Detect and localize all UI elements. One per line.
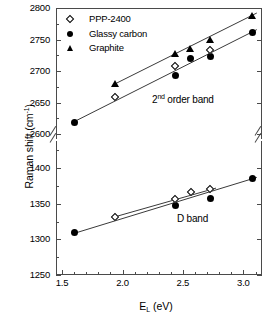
y-tick-label-2700: 2700 xyxy=(4,66,50,76)
legend-label-ppp-2400: PPP-2400 xyxy=(89,12,131,27)
x-tick-minor xyxy=(207,272,208,275)
data-point-graphite xyxy=(206,36,214,43)
y-tick-1250 xyxy=(56,275,61,276)
y-tick-minor xyxy=(56,118,59,119)
y-tick-minor xyxy=(56,87,59,88)
x-tick-minor xyxy=(171,272,172,275)
y-tick-label-2750: 2750 xyxy=(4,35,50,45)
y-tick-2650 xyxy=(56,103,61,104)
y-tick-label-2650: 2650 xyxy=(4,98,50,108)
x-tick-label-3-0: 3.0 xyxy=(228,277,258,288)
y-tick-right xyxy=(257,239,262,240)
x-tick-minor xyxy=(135,272,136,275)
annotation-d-band: D band xyxy=(177,213,208,224)
data-point-graphite xyxy=(111,80,119,87)
left-axis-connector xyxy=(56,134,57,148)
legend-label-graphite: Graphite xyxy=(89,41,124,56)
y-tick-2750 xyxy=(56,40,61,41)
data-point-graphite xyxy=(248,12,256,19)
axis-break-right-icon xyxy=(255,139,268,141)
axis-break-left-icon xyxy=(50,139,63,141)
x-tick-label-2-5: 2.5 xyxy=(168,277,198,288)
y-axis-title-exponent: -1 xyxy=(23,107,30,113)
x-tick-minor xyxy=(159,272,160,275)
filled-triangle-marker-icon xyxy=(66,45,89,51)
x-tick-minor xyxy=(231,272,232,275)
x-tick-label-1-5: 1.5 xyxy=(47,277,77,288)
y-tick-minor xyxy=(56,150,59,151)
y-tick-right xyxy=(257,204,262,205)
y-tick-minor xyxy=(56,55,59,56)
x-tick-2-0 xyxy=(123,270,124,275)
x-tick-minor xyxy=(219,272,220,275)
legend-item-ppp-2400: PPP-2400 xyxy=(66,12,147,27)
data-point-graphite xyxy=(186,45,194,52)
raman-shift-figure: Raman shift (cm-1) EL (eV) 2800 2750 270… xyxy=(0,0,274,323)
panel-d-band xyxy=(56,148,262,275)
filled-circle-marker-icon xyxy=(66,31,89,37)
y-tick-label-1350: 1350 xyxy=(4,199,50,209)
y-tick-label-1300: 1300 xyxy=(4,234,50,244)
x-tick-3-0 xyxy=(243,270,244,275)
y-tick-right xyxy=(257,71,262,72)
y-tick-label-1250: 1250 xyxy=(4,270,50,280)
y-tick-minor xyxy=(56,222,59,223)
x-tick-minor xyxy=(74,272,75,275)
x-tick-minor xyxy=(195,272,196,275)
y-tick-2800 xyxy=(56,8,61,9)
right-axis-connector xyxy=(261,134,262,148)
x-tick-minor xyxy=(98,272,99,275)
y-tick-2700 xyxy=(56,71,61,72)
data-point-glassy-carbon xyxy=(172,202,179,209)
legend-item-graphite: Graphite xyxy=(66,41,147,56)
y-tick-right xyxy=(257,134,262,135)
annotation-second-order-ordinal: nd xyxy=(157,93,164,100)
y-tick-label-1400: 1400 xyxy=(4,163,50,173)
y-axis-title-text: Raman shift (cm xyxy=(23,114,35,189)
x-tick-minor xyxy=(110,272,111,275)
y-tick-2600 xyxy=(56,134,61,135)
x-tick-minor xyxy=(86,272,87,275)
legend: PPP-2400 Glassy carbon Graphite xyxy=(66,12,147,56)
x-tick-minor xyxy=(147,272,148,275)
data-point-glassy-carbon xyxy=(207,195,214,202)
open-diamond-marker-icon xyxy=(66,16,89,22)
legend-label-glassy-carbon: Glassy carbon xyxy=(89,27,147,42)
x-tick-minor xyxy=(256,272,257,275)
y-tick-label-2600: 2600 xyxy=(4,129,50,139)
y-tick-1350 xyxy=(56,204,61,205)
x-tick-label-2-0: 2.0 xyxy=(108,277,138,288)
y-tick-right xyxy=(257,40,262,41)
x-axis-title-unit: (eV) xyxy=(150,300,173,312)
y-tick-minor xyxy=(56,186,59,187)
data-point-graphite xyxy=(171,50,179,57)
y-tick-right xyxy=(257,168,262,169)
y-tick-minor xyxy=(56,24,59,25)
data-point-glassy-carbon xyxy=(172,72,179,79)
y-tick-right xyxy=(257,103,262,104)
y-tick-label-2800: 2800 xyxy=(4,3,50,13)
y-tick-1400 xyxy=(56,168,61,169)
y-tick-minor xyxy=(56,257,59,258)
data-point-glassy-carbon xyxy=(249,175,256,182)
x-tick-2-5 xyxy=(183,270,184,275)
y-tick-right xyxy=(257,275,262,276)
data-point-glassy-carbon xyxy=(71,119,78,126)
data-point-glassy-carbon xyxy=(249,29,256,36)
annotation-second-order-band: 2nd order band xyxy=(152,93,214,105)
legend-item-glassy-carbon: Glassy carbon xyxy=(66,27,147,42)
x-axis-title: EL (eV) xyxy=(96,300,216,313)
annotation-second-order-text: order band xyxy=(165,94,214,105)
x-tick-1-5 xyxy=(62,270,63,275)
y-tick-right xyxy=(257,8,262,9)
y-tick-1300 xyxy=(56,239,61,240)
